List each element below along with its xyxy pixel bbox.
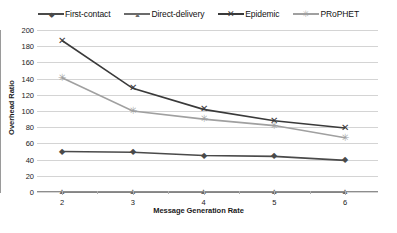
y-axis-tick-label: 0	[8, 188, 34, 197]
series-line-3	[62, 78, 345, 138]
x-axis-minor-tick	[239, 191, 240, 194]
legend-item-prophet[interactable]: ✳PRoPHET	[293, 8, 359, 20]
x-axis-tick-mark	[204, 191, 205, 195]
legend-swatch-icon: ✳	[293, 8, 319, 20]
series-lines	[37, 30, 378, 192]
legend-swatch-icon: ▲	[124, 8, 150, 20]
legend-item-direct-delivery[interactable]: ▲Direct-delivery	[124, 8, 204, 20]
y-axis-tick-label: 20	[8, 171, 34, 180]
y-axis-tick-label: 200	[8, 26, 34, 35]
y-axis-tick-label: 60	[8, 139, 34, 148]
chart-legend: ◆First-contact▲Direct-delivery✕Epidemic✳…	[0, 6, 397, 22]
x-axis-minor-tick	[168, 191, 169, 194]
legend-swatch-icon: ✕	[218, 8, 244, 20]
x-axis-minor-tick	[97, 191, 98, 194]
y-axis-tick-label: 40	[8, 155, 34, 164]
x-axis-tick-mark	[345, 191, 346, 195]
y-axis-line	[0, 30, 1, 193]
x-axis-title: Message Generation Rate	[0, 206, 397, 215]
plot-area: ◆◆◆◆◆▲▲▲▲▲✕✕✕✕✕✳✳✳✳✳ 23456	[37, 30, 378, 192]
x-axis-tick-mark	[274, 191, 275, 195]
y-axis-tick-label: 160	[8, 58, 34, 67]
x-axis-minor-tick	[310, 191, 311, 194]
legend-label: Epidemic	[245, 9, 279, 19]
x-axis-tick-mark	[133, 191, 134, 195]
legend-swatch-icon: ◆	[38, 8, 64, 20]
x-axis-tick-mark	[62, 191, 63, 195]
y-axis-title: Overhead Ratio	[7, 78, 16, 138]
y-axis-tick-label: 180	[8, 42, 34, 51]
series-line-0	[62, 152, 345, 161]
series-line-2	[62, 41, 345, 128]
legend-item-epidemic[interactable]: ✕Epidemic	[218, 8, 279, 20]
legend-label: First-contact	[65, 9, 110, 19]
x-axis-line	[37, 191, 378, 192]
legend-label: Direct-delivery	[151, 9, 204, 19]
chart-container: ◆First-contact▲Direct-delivery✕Epidemic✳…	[0, 0, 397, 233]
legend-item-first-contact[interactable]: ◆First-contact	[38, 8, 110, 20]
legend-label: PRoPHET	[320, 9, 359, 19]
